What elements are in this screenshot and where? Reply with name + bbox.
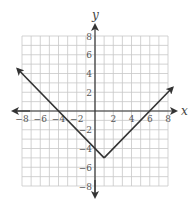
- y-tick-label: −6: [79, 163, 93, 173]
- x-tick-label: −2: [70, 114, 83, 124]
- y-tick-label: −4: [79, 144, 93, 154]
- x-tick-label: 6: [147, 114, 153, 124]
- axes: [13, 25, 176, 197]
- y-tick-label: 2: [86, 88, 92, 98]
- y-axis-label: y: [91, 8, 99, 22]
- y-tick-label: 4: [86, 69, 92, 79]
- y-tick-label: −8: [79, 182, 93, 192]
- x-tick-label: 8: [165, 114, 171, 124]
- x-tick-label: −6: [34, 114, 48, 124]
- x-tick-label: 2: [110, 114, 116, 124]
- x-tick-label: −8: [15, 114, 29, 124]
- function-graph: −8−6−4−224688642−2−4−6−8 x y: [0, 0, 196, 205]
- y-tick-label: 6: [86, 50, 92, 60]
- y-tick-label: 8: [86, 32, 92, 42]
- x-tick-label: 4: [129, 114, 135, 124]
- x-axis-label: x: [181, 104, 188, 118]
- curve-left-branch: [17, 69, 104, 158]
